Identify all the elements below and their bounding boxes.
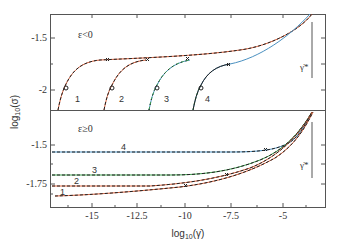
curve-label: 1 [60,187,65,197]
y-tick-label: -1.75 [26,178,47,189]
curve-label: 4 [205,94,210,104]
y-tick-label: -1.5 [31,32,47,43]
curve-label: 3 [92,165,97,175]
x-axis-label: log10(γ̇) [172,228,205,240]
x-tick-label: -15 [85,210,98,221]
x-tick-label: -10 [178,210,191,221]
curve-label: 2 [119,94,124,104]
y-axis-label: log10(σ) [9,95,21,129]
figure: -15 -12.5 -10 -7.5 -5 log10(γ̇) -1.5 -2 … [0,0,337,251]
curve-label: 1 [75,94,80,104]
scale-bar-label: γ̇* [299,62,309,72]
x-tick-label: -5 [279,210,287,221]
top-panel-label: ε<0 [78,29,93,40]
scale-bar-label: γ̇* [299,160,309,170]
top-curves [58,14,312,110]
curve-label: 2 [74,176,79,186]
curve-label: 4 [121,142,126,152]
top-circle-markers [64,86,203,90]
curve-label: 3 [164,94,169,104]
x-tick-label: -7.5 [223,210,239,221]
y-tick-label: -2 [39,84,47,95]
x-tick-label: -12.5 [127,210,148,221]
bottom-panel-label: ε≥0 [78,123,93,134]
y-tick-label: -1.5 [31,139,47,150]
